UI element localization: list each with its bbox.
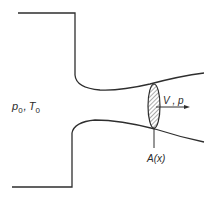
area-label: A(x) — [146, 153, 165, 164]
pressure-symbol: p — [11, 100, 18, 112]
arrow-head-icon — [184, 105, 190, 109]
flow-label: V , p — [163, 95, 184, 106]
lower-wall — [12, 120, 204, 187]
separator: , — [24, 100, 27, 112]
pressure-subscript: 0 — [18, 106, 23, 115]
nozzle-diagram: p0,T0 V , p A(x) — [0, 0, 216, 198]
cross-section-area — [148, 84, 160, 128]
temperature-subscript: 0 — [35, 106, 40, 115]
reservoir-label: p0,T0 — [11, 100, 40, 115]
upper-wall — [18, 13, 204, 90]
